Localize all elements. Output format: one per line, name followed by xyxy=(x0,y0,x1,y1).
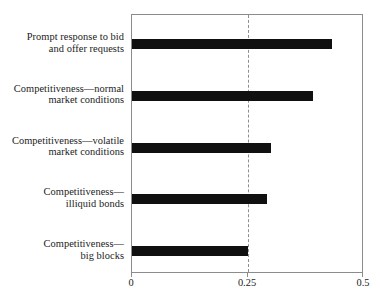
bar xyxy=(132,194,267,204)
category-label-line: market conditions xyxy=(0,94,124,106)
category-label-line: and offer requests xyxy=(0,43,124,55)
category-label-line: market conditions xyxy=(0,146,124,158)
bar xyxy=(132,39,332,49)
category-label: Competitiveness—big blocks xyxy=(0,238,124,261)
bar xyxy=(132,246,248,256)
category-label-line: Competitiveness— xyxy=(0,186,124,198)
x-tick-label: 0 xyxy=(128,277,133,289)
x-axis: 00.250.5 xyxy=(131,273,363,303)
horizontal-bar-chart: Prompt response to bidand offer requests… xyxy=(0,0,380,303)
category-label-line: Competitiveness—normal xyxy=(0,83,124,95)
category-axis-labels: Prompt response to bidand offer requests… xyxy=(0,14,128,273)
category-label: Competitiveness—normalmarket conditions xyxy=(0,83,124,106)
plot-inner xyxy=(132,15,362,272)
x-tick-label: 0.5 xyxy=(357,277,370,289)
category-label: Prompt response to bidand offer requests xyxy=(0,31,124,54)
category-label-line: big blocks xyxy=(0,250,124,262)
category-label-line: illiquid bonds xyxy=(0,198,124,210)
category-label: Competitiveness—illiquid bonds xyxy=(0,186,124,209)
bar xyxy=(132,143,271,153)
category-label-line: Prompt response to bid xyxy=(0,31,124,43)
category-label: Competitiveness—volatilemarket condition… xyxy=(0,135,124,158)
category-label-line: Competitiveness— xyxy=(0,238,124,250)
category-label-line: Competitiveness—volatile xyxy=(0,135,124,147)
plot-area xyxy=(131,14,363,273)
bar xyxy=(132,91,313,101)
x-tick-label: 0.25 xyxy=(238,277,256,289)
